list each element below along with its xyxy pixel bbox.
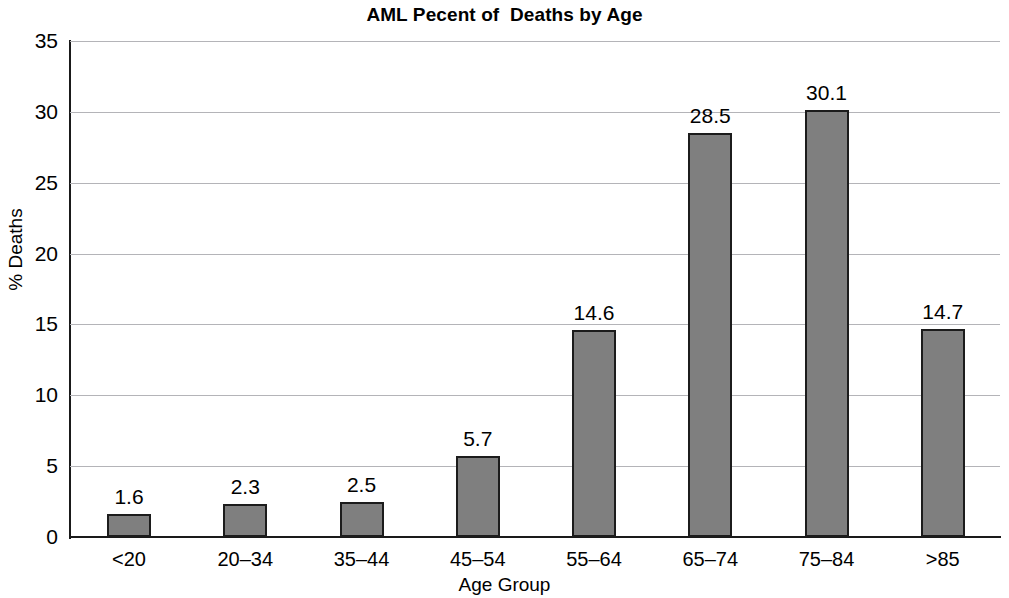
y-axis-tick-label: 30 [4,101,58,122]
bar [223,504,267,537]
bar-value-label: 14.7 [893,301,993,322]
y-axis-tick-label: 0 [4,526,58,547]
y-axis-tick-label: 25 [4,172,58,193]
x-axis-category-label: 65–74 [650,548,770,570]
y-axis-tick-label: 35 [4,30,58,51]
bar [340,502,384,537]
bar-value-label: 28.5 [660,105,760,126]
x-axis-category-label: 20–34 [185,548,305,570]
gridline [70,466,1000,467]
gridline [70,395,1000,396]
x-axis-category-label: 55–64 [534,548,654,570]
y-axis-tick-label: 10 [4,384,58,405]
gridline [70,41,1000,42]
chart-title: AML Pecent of Deaths by Age [0,4,1009,26]
bar [921,329,965,537]
bar-value-label: 30.1 [777,82,877,103]
x-axis-title: Age Group [0,574,1009,595]
gridline [70,324,1000,325]
bar [688,133,732,537]
gridline [70,254,1000,255]
x-axis-category-label: >85 [883,548,1003,570]
bar [572,330,616,537]
x-axis-category-label: 35–44 [302,548,422,570]
bar-value-label: 5.7 [428,428,528,449]
bar-value-label: 2.5 [312,474,412,495]
x-axis-category-label: <20 [69,548,189,570]
bar-value-label: 1.6 [79,486,179,507]
y-axis-tick-label: 20 [4,243,58,264]
x-axis-category-label: 45–54 [418,548,538,570]
gridline [70,112,1000,113]
bar [456,456,500,537]
bar [805,110,849,537]
x-axis-category-label: 75–84 [767,548,887,570]
bar-value-label: 14.6 [544,302,644,323]
y-axis-tick-label: 5 [4,455,58,476]
bar-value-label: 2.3 [195,476,295,497]
bar [107,514,151,537]
y-axis-tick-label: 15 [4,313,58,334]
chart-figure: AML Pecent of Deaths by Age % Deaths 051… [0,0,1009,598]
gridline [70,183,1000,184]
plot-area [70,41,1000,537]
